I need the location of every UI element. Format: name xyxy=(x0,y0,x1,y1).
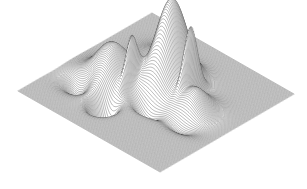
mesh-row-group xyxy=(18,0,294,189)
surface-mesh-canvas xyxy=(0,0,307,189)
surface-plot-figure xyxy=(0,0,307,189)
